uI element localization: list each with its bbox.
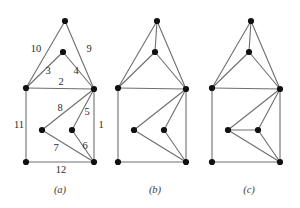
edge-inner-top-to-square-tl xyxy=(212,52,249,88)
edge-label-2: 2 xyxy=(58,76,63,87)
edge-apex-to-inner-top xyxy=(249,21,251,52)
edge-square-br-to-inner-right xyxy=(164,130,186,162)
panel-caption-c: (c) xyxy=(243,184,255,196)
vertex-inner-left xyxy=(39,127,45,133)
vertex-square-tl xyxy=(209,85,215,91)
vertex-square-br xyxy=(183,159,189,165)
vertex-square-br xyxy=(91,159,97,165)
panel-caption-a: (a) xyxy=(54,184,67,196)
graph-panel-a: 109342111128567 xyxy=(14,18,104,176)
edge-apex-to-square-tr xyxy=(65,21,94,89)
vertex-inner-right xyxy=(161,127,167,133)
edge-apex-to-square-tl xyxy=(212,21,251,88)
edge-apex-to-square-tr xyxy=(157,21,186,89)
vertex-square-tr xyxy=(183,86,189,92)
vertex-square-tr xyxy=(91,86,97,92)
vertex-inner-right xyxy=(255,127,261,133)
edge-square-br-to-inner-left xyxy=(228,130,280,162)
edge-apex-to-square-tr xyxy=(251,21,280,89)
edge-label-11: 11 xyxy=(14,119,24,130)
vertex-square-br xyxy=(277,159,283,165)
edge-label-10: 10 xyxy=(31,43,42,54)
edge-label-6: 6 xyxy=(82,140,87,151)
vertex-inner-top xyxy=(152,49,158,55)
vertex-square-tl xyxy=(115,85,121,91)
vertex-inner-left xyxy=(225,127,231,133)
vertex-apex xyxy=(154,18,160,24)
vertex-square-tl xyxy=(23,85,29,91)
edge-label-7: 7 xyxy=(53,142,58,153)
edge-inner-top-to-square-tr xyxy=(249,52,280,89)
edge-group xyxy=(118,21,186,162)
vertex-apex xyxy=(62,18,68,24)
edge-group xyxy=(212,21,280,162)
graph-panel-c xyxy=(209,18,283,165)
edge-square-tl-to-square-tr xyxy=(118,88,186,89)
vertex-inner-left xyxy=(131,127,137,133)
edge-square-tr-to-inner-right xyxy=(72,89,94,130)
vertex-inner-top xyxy=(246,49,252,55)
edge-label-9: 9 xyxy=(86,43,91,54)
edge-label-1: 1 xyxy=(98,119,103,130)
vertex-group xyxy=(209,18,283,165)
edge-square-tl-to-square-tr xyxy=(212,88,280,89)
edge-inner-top-to-square-tl xyxy=(118,52,155,88)
edge-square-br-to-inner-right xyxy=(258,130,280,162)
vertex-inner-top xyxy=(60,49,66,55)
graph-panel-b xyxy=(115,18,189,165)
edge-label-4: 4 xyxy=(73,65,79,76)
edge-inner-top-to-square-tr xyxy=(155,52,186,89)
edge-apex-to-inner-top xyxy=(155,21,157,52)
edge-square-tr-to-inner-left xyxy=(134,89,186,130)
vertex-inner-right xyxy=(69,127,75,133)
edge-label-8: 8 xyxy=(57,102,62,113)
graph-figure: 109342111128567(a)(b)(c) xyxy=(0,0,300,208)
vertex-apex xyxy=(248,18,254,24)
panel-caption-b: (b) xyxy=(149,184,162,196)
edge-square-br-to-inner-left xyxy=(134,130,186,162)
edge-square-tr-to-inner-right xyxy=(258,89,280,130)
edge-label-12: 12 xyxy=(56,164,67,175)
vertex-square-bl xyxy=(23,159,29,165)
edge-apex-to-square-tl xyxy=(118,21,157,88)
edge-label-3: 3 xyxy=(45,65,50,76)
edge-square-tr-to-inner-left xyxy=(228,89,280,130)
edge-square-tl-to-square-tr xyxy=(26,88,94,89)
vertex-square-bl xyxy=(115,159,121,165)
vertex-square-tr xyxy=(277,86,283,92)
edge-label-5: 5 xyxy=(84,106,89,117)
edge-square-tr-to-inner-right xyxy=(164,89,186,130)
vertex-group xyxy=(115,18,189,165)
vertex-square-bl xyxy=(209,159,215,165)
